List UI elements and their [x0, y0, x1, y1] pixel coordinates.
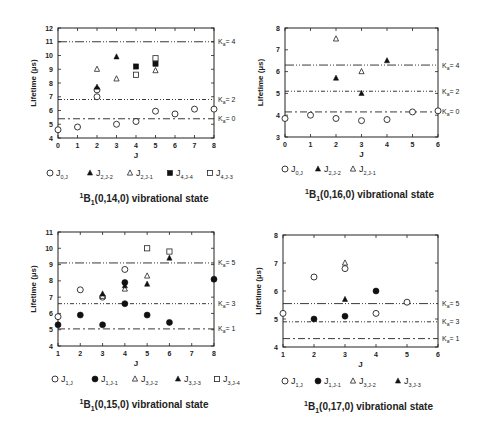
legend-item: J3,J-3	[175, 374, 200, 386]
y-tick-label: 6	[49, 107, 53, 114]
y-tick-label: 11	[46, 38, 54, 45]
legend: J0,JJ2,J-2J2,J-1	[282, 164, 376, 176]
marker-triangle-filled	[333, 75, 338, 80]
reference-line-label: Ka= 5	[218, 259, 235, 268]
y-axis-label: Lifetime (µs)	[254, 267, 263, 315]
x-tick-label: 3	[115, 142, 119, 149]
legend-label: J2,J-1	[136, 168, 153, 180]
legend-label: J3,J-2	[359, 376, 376, 388]
y-tick-label: 12	[45, 25, 53, 32]
marker-triangle-open	[153, 68, 158, 73]
x-axis-label: J	[358, 360, 362, 369]
legend-label: J4,J-4	[176, 168, 193, 180]
legend-label: J3,J-3	[184, 374, 201, 386]
x-tick-label: 4	[123, 350, 127, 357]
x-tick-label: 3	[101, 350, 105, 357]
x-tick-label: 6	[167, 350, 171, 357]
legend-item: J2,J-1	[350, 164, 375, 176]
y-tick-label: 9	[49, 66, 53, 73]
y-tick-label: 6	[274, 288, 278, 295]
y-tick-label: 9	[49, 261, 53, 268]
y-tick-label: 7	[276, 46, 280, 53]
legend-label: J2,J-2	[96, 168, 113, 180]
x-tick-label: 3	[360, 141, 364, 148]
legend-item: J3,J-2	[350, 376, 375, 388]
x-tick-label: 1	[309, 141, 313, 148]
x-tick-label: 7	[190, 350, 194, 357]
legend: J1,JJ1,J-1J3,J-2J3,J-3	[282, 376, 421, 388]
chart-panel-p14: Ka= 4Ka= 2Ka= 0012345678456789101112JLif…	[29, 25, 235, 207]
reference-line-label: Ka= 5	[442, 300, 459, 309]
series-J1-J	[280, 266, 410, 317]
y-tick-label: 11	[46, 229, 54, 236]
x-tick-label: 2	[334, 141, 338, 148]
legend-item: J3,J-3	[395, 376, 420, 388]
legend-item: J3,J-2	[132, 374, 157, 386]
series-J1-J-1	[55, 276, 217, 328]
legend-item: J2,J-1	[127, 168, 152, 180]
marker-circle-open	[342, 266, 348, 272]
y-tick-label: 4	[49, 343, 53, 350]
marker-circle-open	[282, 115, 288, 121]
marker-triangle-filled	[384, 58, 389, 63]
marker-triangle-filled	[114, 54, 119, 59]
legend-label: J1,J	[291, 376, 303, 388]
x-axis-label: J	[359, 150, 363, 159]
marker-triangle-open	[333, 36, 338, 41]
x-tick-label: 1	[76, 142, 80, 149]
marker-circle-open	[114, 121, 120, 127]
x-tick-label: 3	[343, 351, 347, 358]
marker-circle-filled	[92, 376, 98, 382]
marker-square-open	[214, 376, 219, 381]
series-J3-J-3	[100, 255, 172, 296]
marker-circle-open	[410, 109, 416, 115]
marker-circle-filled	[166, 319, 172, 325]
x-tick-label: 4	[134, 142, 138, 149]
y-tick-label: 8	[49, 277, 53, 284]
y-axis-label: Lifetime (µs)	[29, 265, 38, 313]
marker-circle-open	[373, 310, 379, 316]
marker-circle-filled	[373, 288, 379, 294]
series-J1-J	[55, 266, 128, 319]
reference-line-label: Ka= 1	[218, 325, 235, 334]
marker-circle-open	[77, 287, 83, 293]
marker-circle-filled	[122, 301, 128, 307]
x-tick-label: 5	[145, 350, 149, 357]
x-tick-label: 4	[385, 141, 389, 148]
marker-triangle-filled	[315, 166, 320, 171]
series-J2-J-2	[333, 58, 389, 96]
legend-item: J3,J-4	[214, 374, 239, 386]
reference-line-label: Ka= 0	[442, 108, 459, 117]
marker-circle-open	[192, 106, 198, 112]
marker-circle-open	[282, 378, 288, 384]
x-tick-label: 1	[56, 350, 60, 357]
marker-square-open	[145, 246, 150, 251]
chart-title: 1B1(0,15,0) vibrational state	[80, 398, 209, 412]
y-tick-label: 4	[274, 344, 278, 351]
x-axis-label: J	[134, 359, 138, 368]
marker-triangle-open	[350, 166, 355, 171]
marker-triangle-filled	[167, 255, 172, 260]
y-axis-label: Lifetime (µs)	[256, 59, 265, 107]
legend-label: J4,J-3	[216, 168, 233, 180]
marker-circle-open	[404, 299, 410, 305]
plot-frame	[283, 235, 438, 347]
marker-circle-open	[94, 94, 100, 100]
marker-circle-open	[122, 266, 128, 272]
x-tick-label: 2	[95, 142, 99, 149]
reference-line-label: Ka= 4	[218, 38, 235, 47]
y-tick-label: 7	[49, 93, 53, 100]
marker-circle-open	[153, 108, 159, 114]
marker-circle-open	[384, 117, 390, 123]
legend-item: J1,J	[282, 376, 303, 388]
marker-circle-open	[308, 112, 314, 118]
series-J2-J-1	[333, 36, 364, 74]
chart-panel-p17: Ka= 5Ka= 3Ka= 112345645678JLifetime (µs)…	[254, 232, 459, 415]
legend-item: J0,J	[47, 168, 68, 180]
marker-circle-filled	[315, 378, 321, 384]
series-J0-J	[282, 108, 441, 124]
reference-line-label: Ka= 3	[442, 318, 459, 327]
marker-circle-open	[311, 274, 317, 280]
y-tick-label: 3	[276, 134, 280, 141]
series-J3-J-3	[342, 296, 347, 301]
